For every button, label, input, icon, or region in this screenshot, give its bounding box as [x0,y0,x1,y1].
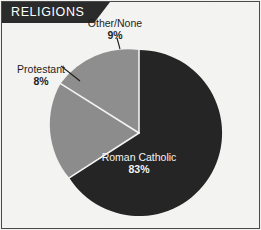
pie-label-other-none-value: 9% [78,30,152,42]
pie-label-roman-catholic-text: Roman Catholic [84,152,194,164]
pie-label-protestant-value: 8% [6,76,76,88]
pie-label-roman-catholic-value: 83% [84,164,194,176]
panel-title: RELIGIONS [11,5,84,19]
pie-label-protestant: Protestant 8% [6,64,76,88]
pie-label-other-none: Other/None 9% [78,18,152,42]
religions-pie-chart-panel: RELIGIONS Other/None 9% Protestant 8% Ro… [0,0,261,230]
pie-label-roman-catholic: Roman Catholic 83% [84,152,194,176]
pie-label-protestant-text: Protestant [6,64,76,76]
pie-label-other-none-text: Other/None [78,18,152,30]
